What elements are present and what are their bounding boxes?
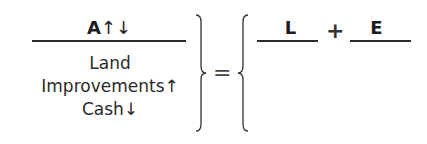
- equity-header-rule: [350, 40, 411, 42]
- list-item: Cash↓: [22, 98, 198, 121]
- down-arrow-icon: ↓: [124, 99, 138, 119]
- assets-header-rule: [32, 40, 186, 42]
- liabilities-header: L: [257, 17, 318, 39]
- liabilities-letter: L: [285, 17, 296, 38]
- assets-letter: A: [87, 17, 101, 38]
- plus-sign: +: [326, 18, 344, 43]
- equity-letter: E: [370, 17, 382, 38]
- equals-sign: =: [213, 60, 231, 85]
- up-arrow-icon: ↑: [164, 76, 178, 96]
- equity-header: E: [350, 17, 411, 39]
- assets-header: A↑↓: [32, 17, 186, 39]
- right-brace-icon: [194, 14, 208, 132]
- list-item: Land: [22, 52, 198, 75]
- left-brace-icon: [236, 14, 250, 132]
- list-item: Improvements↑: [22, 75, 198, 98]
- liabilities-header-rule: [257, 40, 318, 42]
- up-down-arrows-icon: ↑↓: [101, 17, 131, 38]
- assets-items-list: Land Improvements↑ Cash↓: [22, 52, 198, 121]
